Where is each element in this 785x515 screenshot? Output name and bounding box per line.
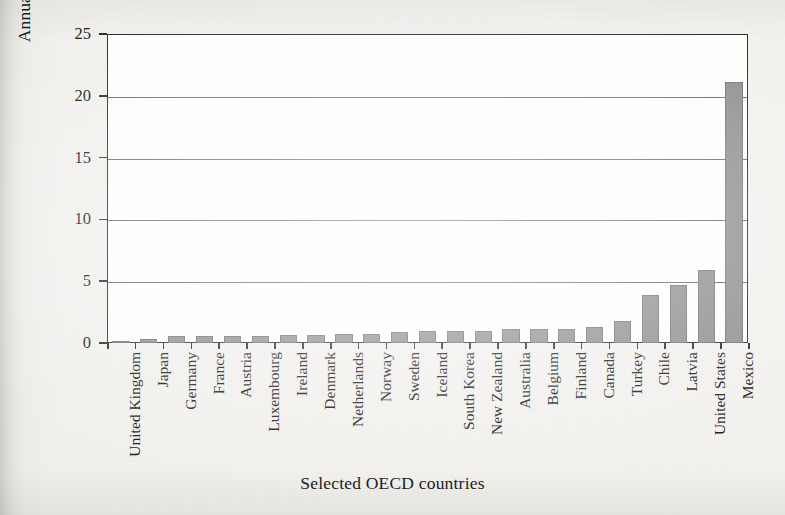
x-axis-tick-mark [330,343,332,349]
x-axis-tick-label: Luxembourg [266,352,282,432]
gridline-10 [108,220,747,221]
x-axis-tick-label: Finland [573,352,589,399]
x-axis-tick-label: Austria [238,352,254,398]
x-axis-tick-label-text: Mexico [740,352,756,399]
x-axis-tick-label: Canada [601,352,617,398]
y-axis-tick-label: 20 [53,88,91,105]
x-axis-tick-mark [274,343,276,349]
x-axis-tick-mark [497,343,499,349]
x-axis-tick-label: Denmark [322,352,338,410]
x-axis-tick-label-text: Japan [155,352,171,387]
x-axis-tick-label-text: Norway [378,352,394,402]
x-axis-tick-mark [581,343,583,349]
x-axis-tick-label-text: Austria [238,352,254,398]
x-axis-tick-label-text: Ireland [294,352,310,396]
x-axis-tick-label-text: Belgium [545,352,561,405]
x-axis-tick-label: Sweden [406,352,422,401]
gridline-5 [108,282,747,283]
x-axis-tick-label: Japan [155,352,171,387]
x-axis-tick-label: Belgium [545,352,561,405]
x-axis-tick-mark [469,343,471,349]
x-axis-tick-mark [748,343,750,349]
figure-page: Annual homicides per 100,000 people 0510… [0,0,785,515]
x-axis-tick-label: Iceland [434,352,450,398]
x-axis-tick-mark [553,343,555,349]
x-axis-tick-label-text: Australia [517,352,533,409]
x-axis-tick-label: South Korea [461,352,477,430]
x-axis-tick-mark [414,343,416,349]
x-axis-tick-label-text: United Kingdom [127,352,143,457]
x-axis-tick-label: United States [712,352,728,435]
x-axis-tick-mark [664,343,666,349]
x-axis-tick-label-text: France [211,352,227,394]
x-axis-tick-mark [525,343,527,349]
x-axis-tick-mark [637,343,639,349]
x-axis-tick-label-text: Germany [183,352,199,410]
x-axis-tick-mark [358,343,360,349]
x-axis-tick-label: Ireland [294,352,310,396]
gridline-20 [108,97,747,98]
x-axis-tick-label: France [211,352,227,394]
x-axis-tick-mark [163,343,165,349]
x-axis-tick-label-text: Denmark [322,352,338,410]
x-axis-tick-label: Turkey [629,352,645,396]
y-axis-tick-mark [99,95,107,97]
x-axis-tick-label: Australia [517,352,533,409]
x-axis-tick-label-text: Luxembourg [266,352,282,432]
y-axis-tick-mark [99,33,107,35]
x-axis-tick-mark [609,343,611,349]
y-axis-tick-label: 0 [53,335,91,352]
y-axis-tick-mark [99,342,107,344]
x-axis-tick-label: Chile [656,352,672,386]
x-axis-tick-label: Mexico [740,352,756,399]
x-axis-tick-label-text: Netherlands [350,352,366,427]
x-axis-tick-label: Netherlands [350,352,366,427]
x-axis-tick-mark [135,343,137,349]
y-axis-tick-label: 25 [53,26,91,43]
x-axis-tick-mark [720,343,722,349]
y-axis-tick-mark [99,280,107,282]
x-axis-tick-mark [441,343,443,349]
x-axis-tick-label: United Kingdom [127,352,143,457]
x-axis-tick-mark [302,343,304,349]
y-axis-tick-mark [99,157,107,159]
x-axis-tick-label-text: New Zealand [489,352,505,435]
x-axis-tick-label: Latvia [684,352,700,392]
y-axis-tick-mark [99,219,107,221]
y-axis-tick-label: 15 [53,150,91,167]
y-axis-title: Annual homicides per 100,000 people [10,0,38,62]
x-axis-tick-labels: United KingdomJapanGermanyFranceAustriaL… [107,352,748,462]
x-axis-tick-label-text: Chile [656,352,672,386]
x-axis-tick-mark [107,343,109,349]
y-axis-tick-label: 5 [53,273,91,290]
x-axis-ticks [107,343,748,350]
x-axis-tick-label-text: United States [712,352,728,435]
x-axis-tick-mark [191,343,193,349]
x-axis-tick-label: Germany [183,352,199,410]
x-axis-tick-label-text: Finland [573,352,589,399]
bar-chart-figure: Annual homicides per 100,000 people 0510… [0,0,785,515]
x-axis-title: Selected OECD countries [0,473,785,494]
x-axis-tick-label: Norway [378,352,394,402]
x-axis-tick-label-text: Iceland [434,352,450,398]
y-axis-tick-label: 10 [53,211,91,228]
gridline-15 [108,159,747,160]
x-axis-tick-label-text: Canada [601,352,617,398]
x-axis-tick-mark [692,343,694,349]
plot-area [107,34,748,343]
x-axis-tick-label-text: South Korea [461,352,477,430]
x-axis-tick-mark [386,343,388,349]
x-axis-tick-mark [246,343,248,349]
x-axis-tick-label-text: Turkey [629,352,645,396]
x-axis-tick-label: New Zealand [489,352,505,435]
x-axis-tick-label-text: Latvia [684,352,700,392]
x-axis-tick-mark [218,343,220,349]
x-axis-tick-label-text: Sweden [406,352,422,401]
